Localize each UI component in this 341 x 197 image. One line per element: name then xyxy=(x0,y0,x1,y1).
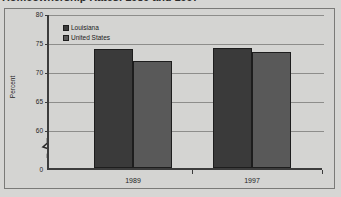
legend-swatch-icon xyxy=(63,25,69,31)
legend-item-louisiana: Louisiana xyxy=(63,24,110,32)
bar-united-states-1989 xyxy=(133,61,172,168)
y-tick-label-60: 60 xyxy=(36,128,43,135)
chart-title-strip: Homeownership Rates: 1989 and 1997 xyxy=(0,0,341,7)
x-tick-mark xyxy=(322,170,323,174)
y-tick-label-80: 80 xyxy=(36,12,43,19)
legend: Louisiana United States xyxy=(63,24,110,42)
y-tick-label-75: 75 xyxy=(36,41,43,48)
bar-louisiana-1989 xyxy=(94,49,133,168)
legend-label: Louisiana xyxy=(71,25,99,32)
bar-louisiana-1997 xyxy=(213,48,252,168)
page-title: Homeownership Rates: 1989 and 1997 xyxy=(2,0,199,3)
x-tick-mark xyxy=(192,170,193,174)
y-tick-label-70: 70 xyxy=(36,70,43,77)
bar-united-states-1997 xyxy=(252,52,291,168)
legend-swatch-icon xyxy=(63,35,69,41)
y-tick-label-0: 0 xyxy=(39,167,43,174)
chart-screenshot: Homeownership Rates: 1989 and 1997 Perce… xyxy=(0,0,341,197)
gridline-75 xyxy=(49,44,324,45)
figure-box: Percent 80 75 70 65 60 0 xyxy=(4,8,335,189)
y-tick-label-65: 65 xyxy=(36,99,43,106)
legend-label: United States xyxy=(71,35,110,42)
plot-area: Louisiana United States 1989 1997 xyxy=(47,15,322,170)
x-tick-label-1997: 1997 xyxy=(244,177,260,184)
legend-item-united-states: United States xyxy=(63,34,110,42)
x-tick-label-1989: 1989 xyxy=(125,177,141,184)
gridline-80 xyxy=(49,15,324,16)
